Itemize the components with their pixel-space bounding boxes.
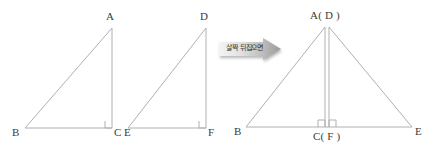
- vertex-label-e: E: [124, 127, 131, 138]
- triangle-def-shape: [128, 28, 206, 128]
- triangle-abc-shape: [25, 28, 112, 128]
- vertex-label-a: A: [106, 11, 114, 22]
- vertex-label-d: D: [200, 11, 208, 22]
- geometry-figure-canvas: A B C D E F A( D ) B C( F ) E 살짝 뒤집으면: [0, 0, 436, 148]
- vertex-label-b-combined: B: [234, 126, 242, 137]
- vertex-label-f: F: [208, 127, 214, 138]
- triangle-abc-outline: [25, 28, 112, 128]
- right-angle-marker-f-combined: [329, 120, 336, 127]
- vertex-label-a-d: A( D ): [310, 10, 340, 21]
- vertex-label-c-f: C( F ): [313, 131, 340, 142]
- right-angle-marker-c: [105, 121, 112, 128]
- vertex-label-c: C: [114, 127, 122, 138]
- transition-arrow-label: 살짝 뒤집으면: [222, 44, 267, 53]
- vertex-label-b: B: [12, 127, 20, 138]
- right-angle-marker-c-combined: [318, 120, 325, 127]
- right-angle-marker-f: [199, 121, 206, 128]
- triangle-def-outline: [128, 28, 206, 128]
- figure-drawing: [0, 0, 436, 148]
- vertex-label-e-combined: E: [415, 126, 422, 137]
